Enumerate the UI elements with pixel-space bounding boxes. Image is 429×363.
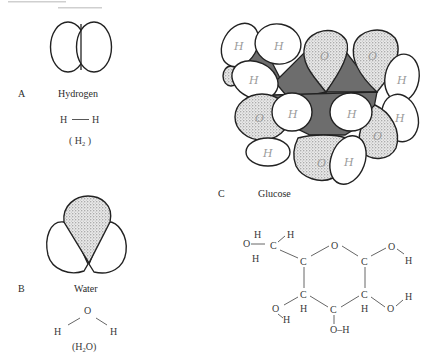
svg-text:O: O — [368, 50, 377, 63]
hydrogen-space-filling-model — [51, 22, 112, 72]
svg-text:H: H — [252, 253, 259, 264]
svg-text:H: H — [346, 108, 357, 121]
svg-text:(H2O): (H2O) — [72, 341, 96, 353]
svg-text:O: O — [373, 130, 382, 143]
svg-text:H: H — [405, 255, 412, 266]
svg-text:O: O — [388, 241, 395, 252]
svg-text:H: H — [92, 114, 99, 125]
svg-text:H: H — [60, 114, 67, 125]
panel-letter-a: A — [18, 88, 26, 99]
molecule-diagram: A Hydrogen H H ( H2 ) B Water O H H (H2O… — [0, 0, 429, 363]
svg-text:H: H — [287, 229, 294, 240]
glucose-structural-formula: O H H C H C O C O H C H O — [243, 229, 412, 335]
svg-text:H: H — [248, 74, 259, 87]
svg-text:H: H — [110, 326, 117, 337]
svg-text:H: H — [343, 156, 354, 169]
panel-hydrogen: A Hydrogen H H ( H2 ) — [18, 22, 112, 147]
svg-text:( H2 ): ( H2 ) — [69, 135, 91, 147]
panel-letter-b: B — [18, 283, 25, 294]
cut-off-header — [8, 1, 102, 9]
svg-text:C: C — [300, 289, 307, 300]
panel-water: B Water O H H (H2O) — [18, 196, 126, 353]
glucose-label: Glucose — [258, 188, 291, 199]
svg-text:O: O — [272, 303, 279, 314]
svg-text:H: H — [405, 291, 412, 302]
svg-text:H: H — [287, 108, 298, 121]
svg-text:O: O — [320, 50, 329, 63]
panel-glucose: H H H O O H H O O H H H O H C Glucose O … — [214, 17, 424, 335]
svg-text:H: H — [262, 147, 273, 160]
svg-text:C: C — [361, 289, 368, 300]
svg-text:O: O — [317, 157, 326, 170]
svg-text:H: H — [396, 74, 407, 87]
svg-text:H: H — [283, 314, 290, 325]
svg-text:O: O — [243, 238, 250, 249]
svg-text:H: H — [273, 40, 284, 53]
svg-text:H: H — [233, 40, 244, 53]
water-label: Water — [74, 283, 98, 294]
svg-text:C: C — [300, 256, 307, 267]
water-structural-formula: O H H — [54, 305, 117, 337]
svg-text:O–H: O–H — [330, 324, 349, 335]
svg-text:O: O — [255, 112, 264, 125]
svg-text:O: O — [387, 303, 394, 314]
svg-text:C: C — [361, 256, 368, 267]
hydrogen-label: Hydrogen — [58, 88, 98, 99]
svg-text:H: H — [54, 326, 61, 337]
svg-text:O: O — [84, 305, 91, 316]
svg-text:H: H — [254, 229, 261, 240]
glucose-space-filling-model: H H H O O H H O O H H H O H — [214, 17, 424, 190]
svg-text:H: H — [394, 112, 405, 125]
panel-letter-c: C — [218, 188, 225, 199]
svg-text:H: H — [361, 303, 368, 314]
water-molecular-formula: (H2O) — [72, 341, 96, 353]
hydrogen-molecular-formula: ( H2 ) — [69, 135, 91, 147]
svg-text:C: C — [270, 240, 277, 251]
hydrogen-structural-formula: H H — [60, 114, 99, 125]
svg-text:H: H — [300, 303, 307, 314]
water-space-filling-model — [47, 196, 126, 273]
svg-text:C: C — [330, 304, 337, 315]
svg-text:O: O — [331, 240, 338, 251]
